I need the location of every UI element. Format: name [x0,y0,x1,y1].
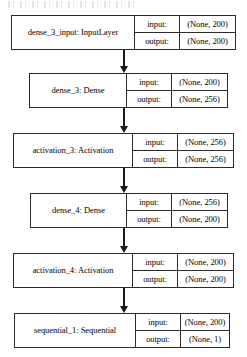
io-shape-output: (None, 200) [178,271,233,288]
io-label-output: output: [127,211,172,228]
arrow-shaft [123,50,125,67]
io-label-input: input: [136,314,181,330]
io-shape-input: (None, 200) [172,74,227,90]
io-label-input: input: [133,254,178,270]
layer-node-activation_3: activation_3: Activationinput:(None, 256… [13,133,234,168]
arrow-shaft [123,108,125,127]
io-label-input: input: [127,74,172,90]
layer-io-table: input:(None, 200)output:(None, 200) [134,16,235,49]
io-shape-output: (None, 200) [180,33,235,50]
io-label-input: input: [127,194,172,210]
scan-artifact [6,1,134,8]
layer-name-label: dense_3: Dense [30,74,126,107]
layer-io-table: input:(None, 256)output:(None, 200) [126,194,227,227]
arrow-head-icon [120,126,128,133]
io-label-input: input: [133,134,178,150]
io-shape-output: (None, 1) [181,331,229,348]
arrow-head-icon [120,66,128,73]
io-row-output: output:(None, 200) [133,271,233,288]
arrow-shaft [123,228,125,247]
io-shape-input: (None, 256) [172,194,227,210]
io-row-output: output:(None, 200) [127,211,227,228]
model-architecture-diagram: dense_3_input: InputLayerinput:(None, 20… [0,0,247,357]
io-shape-input: (None, 200) [180,16,235,32]
layer-name-label: activation_4: Activation [14,254,132,287]
io-shape-input: (None, 256) [178,134,233,150]
io-row-input: input:(None, 200) [133,254,233,271]
arrow-shaft [123,288,125,307]
io-label-output: output: [133,271,178,288]
layer-io-table: input:(None, 256)output:(None, 256) [132,134,233,167]
io-label-output: output: [133,151,178,168]
arrow-shaft [123,168,125,187]
layer-node-activation_4: activation_4: Activationinput:(None, 200… [13,253,234,288]
io-row-output: output:(None, 1) [136,331,229,348]
layer-node-sequential_1: sequential_1: Sequentialinput:(None, 200… [14,313,230,348]
io-row-input: input:(None, 200) [127,74,227,91]
io-shape-output: (None, 256) [172,91,227,108]
layer-node-dense_4: dense_4: Denseinput:(None, 256)output:(N… [30,193,228,228]
arrow-head-icon [120,246,128,253]
layer-io-table: input:(None, 200)output:(None, 256) [126,74,227,107]
io-row-output: output:(None, 200) [135,33,235,50]
layer-node-dense_3: dense_3: Denseinput:(None, 200)output:(N… [29,73,228,108]
io-row-input: input:(None, 200) [135,16,235,33]
io-row-output: output:(None, 256) [127,91,227,108]
io-row-output: output:(None, 256) [133,151,233,168]
layer-io-table: input:(None, 200)output:(None, 200) [132,254,233,287]
io-shape-output: (None, 200) [172,211,227,228]
layer-name-label: sequential_1: Sequential [15,314,135,347]
layer-name-label: activation_3: Activation [14,134,132,167]
io-label-output: output: [135,33,180,50]
io-label-output: output: [127,91,172,108]
layer-io-table: input:(None, 200)output:(None, 1) [135,314,229,347]
layer-node-dense_3_input: dense_3_input: InputLayerinput:(None, 20… [11,15,236,50]
io-row-input: input:(None, 200) [136,314,229,331]
layer-name-label: dense_4: Dense [31,194,126,227]
io-shape-input: (None, 200) [178,254,233,270]
layer-name-label: dense_3_input: InputLayer [12,16,134,49]
io-row-input: input:(None, 256) [133,134,233,151]
arrow-head-icon [120,306,128,313]
io-label-output: output: [136,331,181,348]
io-shape-output: (None, 256) [178,151,233,168]
arrow-head-icon [120,186,128,193]
io-label-input: input: [135,16,180,32]
io-shape-input: (None, 200) [181,314,229,330]
io-row-input: input:(None, 256) [127,194,227,211]
